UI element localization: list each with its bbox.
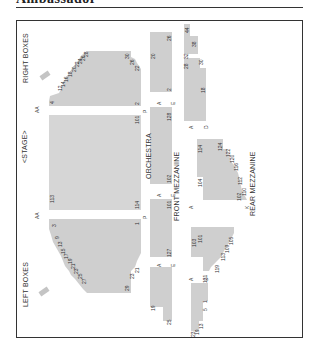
rmezz-row-k-2: K (245, 206, 250, 209)
seat-number: 27 (82, 278, 87, 284)
seat-number: 28 (184, 63, 189, 69)
seat-number: 19 (151, 305, 156, 311)
seat-number: 5 (203, 308, 208, 311)
seat-number: 26 (167, 35, 172, 41)
seat-number: 104 (198, 179, 203, 187)
front-mezzanine-label: FRONT MEZZANINE (173, 152, 180, 221)
seat-number: 109 (225, 245, 230, 253)
seat-number: 116 (234, 163, 239, 171)
seat-number: 114 (198, 145, 203, 153)
seat-number: 23 (191, 331, 196, 337)
orchestra-label: ORCHESTRA (145, 133, 152, 179)
fmezz-row-a-2: A (157, 194, 162, 197)
rmezz-row-a-2: A (189, 206, 194, 209)
seat-number: 101 (198, 235, 203, 243)
seat-number: 113 (221, 253, 226, 261)
seat-number: 2 (135, 102, 140, 105)
rmezz-row-a-3: A (189, 278, 194, 281)
orchestra-right-section[interactable] (17, 21, 304, 339)
seat-number: 128 (167, 113, 172, 121)
fmezz-row-a-1: A (157, 102, 162, 105)
fmezz-row-e-2: E (171, 194, 176, 197)
seat-number: 18 (68, 71, 73, 77)
rmezz-row-a-1: A (189, 126, 194, 129)
stage-label: <STAGE> (21, 130, 28, 163)
seat-number: 38 (192, 41, 197, 47)
seat-number: 18 (201, 87, 206, 93)
seat-number: 102 (237, 193, 242, 201)
seating-chart: RIGHT BOXES <STAGE> ORCHESTRA FRONT MEZZ… (16, 20, 303, 338)
fmezz-row-e-1: E (171, 102, 176, 105)
rear-mezzanine-label: REAR MEZZANINE (249, 151, 256, 216)
seat-number: 1 (203, 300, 208, 303)
row-label-aa-top: AA (35, 106, 40, 113)
seat-number: 32 (184, 53, 189, 59)
seat-number: 44 (185, 27, 190, 33)
fmezz-row-a-3: A (157, 264, 162, 267)
seat-number: 21 (135, 267, 140, 273)
seat-number: 101 (135, 116, 140, 124)
seat-number: 119 (215, 265, 220, 273)
seat-number: 25 (167, 319, 172, 325)
header-divider (16, 7, 303, 8)
seat-number: 16 (64, 76, 69, 82)
seat-number: 101 (167, 201, 172, 209)
rmezz-row-d-1: D (204, 125, 209, 129)
seat-number: 9 (55, 236, 60, 239)
seat-number: 20 (72, 66, 77, 72)
seat-number: 13 (58, 241, 63, 247)
seat-number: 110 (242, 188, 247, 196)
row-label-p-top: P (143, 110, 148, 113)
seat-number: 23 (130, 273, 135, 279)
seat-number: 20 (151, 53, 156, 59)
seat-number: 29 (125, 285, 130, 291)
venue-title: Ambassador (16, 0, 96, 7)
row-label-aa-bottom: AA (35, 212, 40, 219)
left-boxes-label: LEFT BOXES (22, 262, 29, 307)
seat-number: 14 (61, 81, 66, 87)
seat-number: 127 (167, 249, 172, 257)
seat-number: 22 (135, 65, 140, 71)
seat-number: 113 (50, 195, 55, 203)
seat-number: 4 (50, 101, 55, 104)
seat-number: 30 (199, 59, 204, 65)
seat-number: 3 (52, 224, 57, 227)
seat-number: 121 (203, 275, 208, 283)
seat-number: 112 (238, 177, 243, 185)
seat-number: 102 (167, 175, 172, 183)
seat-number: 120 (230, 155, 235, 163)
seat-number: 2 (167, 88, 172, 91)
seat-number: 1 (135, 222, 140, 225)
row-label-p-bottom: P (143, 216, 148, 219)
seat-number: 114 (135, 201, 140, 209)
seat-number: 28 (84, 51, 89, 57)
fmezz-row-e-3: E (171, 264, 176, 267)
seat-number: 124 (218, 143, 223, 151)
